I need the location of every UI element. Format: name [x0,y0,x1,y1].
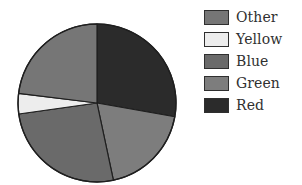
pie-slice-other[interactable] [19,24,97,103]
legend-label-green: Green [236,76,280,91]
legend-swatch-other [204,10,229,25]
legend-label-red: Red [236,98,264,113]
legend-item-other[interactable]: Other [204,9,300,25]
pie-slice-group [18,24,176,182]
legend-swatch-red [204,98,229,113]
pie-plot-area [0,0,196,185]
legend-item-blue[interactable]: Blue [204,53,300,69]
pie-slice-blue[interactable] [19,103,114,182]
legend-swatch-blue [204,54,229,69]
legend-swatch-yellow [204,32,229,47]
legend-label-other: Other [236,10,278,25]
legend-label-blue: Blue [236,54,268,69]
legend-item-green[interactable]: Green [204,75,300,91]
pie-svg [0,0,196,185]
pie-chart-figure: Other Yellow Blue Green Red [0,0,302,185]
legend-item-red[interactable]: Red [204,97,300,113]
legend-item-yellow[interactable]: Yellow [204,31,300,47]
pie-slice-red[interactable] [97,24,176,117]
legend-swatch-green [204,76,229,91]
chart-legend: Other Yellow Blue Green Red [204,9,300,113]
legend-label-yellow: Yellow [236,32,282,47]
